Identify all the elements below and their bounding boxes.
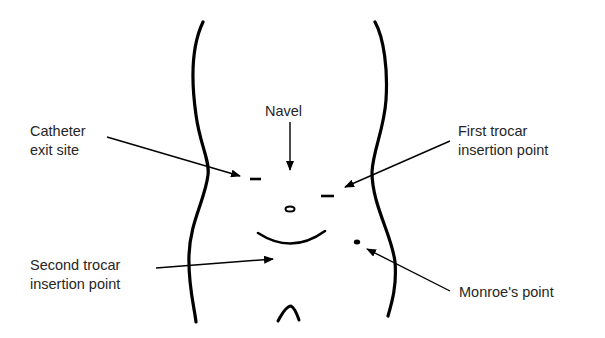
second-trocar-label-line-2: insertion point [30,275,120,294]
monroes-point-label-line-1: Monroe's point [459,283,554,302]
catheter-label-line-2: exit site [30,141,86,160]
first-trocar-arrow [345,141,450,187]
monroes-arrow [367,249,450,291]
navel-mark [286,206,295,211]
first-trocar-label: First trocar insertion point [458,122,548,160]
second-trocar-label-line-1: Second trocar [30,256,120,275]
second-trocar-arrow [156,259,273,268]
monroes-point-label: Monroe's point [459,283,554,302]
second-trocar-label: Second trocar insertion point [30,256,120,294]
catheter-exit-site-label: Catheter exit site [30,122,86,160]
monroes-point-mark [354,240,360,245]
catheter-arrow [107,137,240,176]
incision-curve [258,231,325,244]
first-trocar-label-line-2: insertion point [458,141,548,160]
abdomen-diagram: Navel Catheter exit site First trocar in… [0,0,605,338]
right-body-outline [372,22,395,316]
first-trocar-label-line-1: First trocar [458,122,548,141]
groin-mark [278,306,299,321]
navel-label: Navel [265,102,302,121]
left-body-outline [189,22,208,322]
catheter-label-line-1: Catheter [30,122,86,141]
navel-label-line-1: Navel [265,102,302,121]
